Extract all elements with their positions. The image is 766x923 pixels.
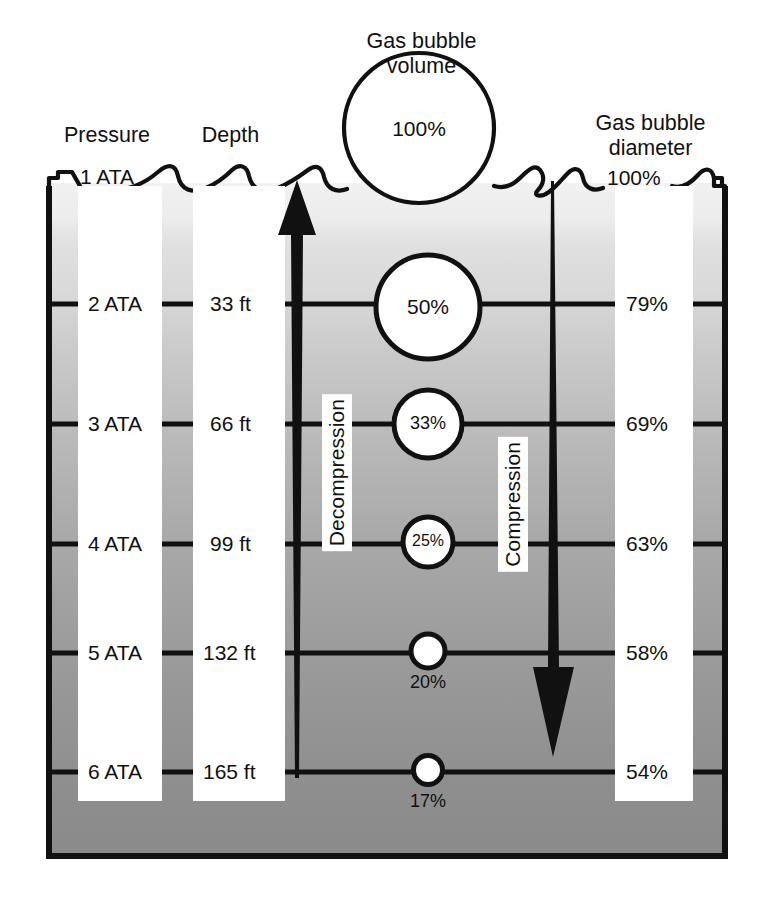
diameter-79: 79% xyxy=(621,291,673,318)
page-bleed-text xyxy=(0,897,766,919)
diameter-54: 54% xyxy=(621,759,673,786)
pressure-4ata: 4 ATA xyxy=(83,531,147,558)
bubble-17 xyxy=(414,756,443,785)
surface-diameter-label: 100% xyxy=(607,167,661,190)
pressure-2ata: 2 ATA xyxy=(83,291,147,318)
header-pressure: Pressure xyxy=(52,124,162,147)
header-diameter-line1: Gas bubble xyxy=(578,112,723,135)
depth-99ft: 99 ft xyxy=(205,531,256,558)
bubble-50 xyxy=(376,255,480,359)
header-depth: Depth xyxy=(183,124,278,147)
diameter-column-backing xyxy=(615,186,693,801)
pressure-5ata: 5 ATA xyxy=(83,640,147,667)
diameter-58: 58% xyxy=(621,640,673,667)
diameter-69: 69% xyxy=(621,411,673,438)
bubble-20 xyxy=(411,634,445,668)
diagram-canvas: Pressure Depth Gas bubble volume Gas bub… xyxy=(0,0,766,923)
depth-column-backing xyxy=(193,186,285,801)
compression-label: Compression xyxy=(498,437,528,572)
depth-132ft: 132 ft xyxy=(198,640,261,667)
depth-165ft: 165 ft xyxy=(198,759,261,786)
pressure-3ata: 3 ATA xyxy=(83,411,147,438)
depth-33ft: 33 ft xyxy=(205,291,256,318)
header-diameter-line2: diameter xyxy=(578,137,723,160)
surface-pressure-label: 1 ATA xyxy=(80,166,134,189)
header-volume-line2: volume xyxy=(349,55,494,78)
pressure-6ata: 6 ATA xyxy=(83,759,147,786)
bubble-33 xyxy=(394,390,462,458)
decompression-label: Decompression xyxy=(322,394,352,551)
header-volume-line1: Gas bubble xyxy=(349,30,494,53)
depth-66ft: 66 ft xyxy=(205,411,256,438)
pressure-column-backing xyxy=(78,186,162,801)
diameter-63: 63% xyxy=(621,531,673,558)
bubble-25 xyxy=(403,517,453,567)
